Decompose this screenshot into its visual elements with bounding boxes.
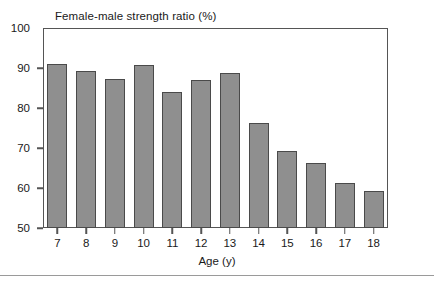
y-axis: 1009080706050 xyxy=(0,0,43,285)
bar xyxy=(47,64,67,228)
x-axis-tick-mark xyxy=(85,228,87,234)
x-axis-tick-mark xyxy=(287,228,289,234)
bar xyxy=(191,80,211,228)
y-axis-tick-label: 70 xyxy=(17,142,30,154)
bar xyxy=(105,79,125,228)
y-axis-tick-label: 80 xyxy=(17,102,30,114)
bar xyxy=(76,71,96,228)
x-axis-tick-label: 14 xyxy=(252,237,265,249)
bar xyxy=(335,183,355,228)
x-axis-tick-mark xyxy=(57,228,59,234)
x-axis-tick-label: 11 xyxy=(166,237,178,249)
bar xyxy=(162,92,182,228)
x-axis-tick-label: 13 xyxy=(223,237,236,249)
x-axis-tick-label: 17 xyxy=(338,237,351,249)
page-divider xyxy=(0,275,434,276)
y-axis-tick-label: 50 xyxy=(17,222,30,234)
bar xyxy=(364,191,384,228)
x-axis-tick-mark xyxy=(200,228,202,234)
x-axis-tick-label: 8 xyxy=(83,237,89,249)
chart-title: Female-male strength ratio (%) xyxy=(55,10,217,22)
x-axis-tick-mark xyxy=(143,228,145,234)
bar xyxy=(306,163,326,228)
x-axis-tick-label: 9 xyxy=(112,237,118,249)
bar xyxy=(134,65,154,228)
x-axis-tick-label: 10 xyxy=(137,237,150,249)
x-axis-tick-label: 7 xyxy=(54,237,60,249)
y-axis-tick-label: 60 xyxy=(17,182,30,194)
y-axis-tick-label: 100 xyxy=(11,22,30,34)
x-axis-tick-mark xyxy=(172,228,174,234)
x-axis-title: Age (y) xyxy=(0,255,434,267)
x-axis-tick-mark xyxy=(258,228,260,234)
x-axis-tick-mark xyxy=(315,228,317,234)
x-axis-tick-label: 16 xyxy=(310,237,323,249)
x-axis-tick-mark xyxy=(373,228,375,234)
y-axis-tick-label: 90 xyxy=(17,62,30,74)
x-axis-tick-mark xyxy=(229,228,231,234)
x-axis-tick-mark xyxy=(114,228,116,234)
bar xyxy=(220,73,240,228)
bar xyxy=(249,123,269,228)
x-axis-tick-mark xyxy=(344,228,346,234)
x-axis-tick-label: 18 xyxy=(367,237,380,249)
bar xyxy=(277,151,297,228)
x-axis-tick-label: 12 xyxy=(195,237,208,249)
bars-group xyxy=(43,28,388,228)
x-axis-tick-label: 15 xyxy=(281,237,294,249)
bar-chart-figure: Female-male strength ratio (%) 100908070… xyxy=(0,0,434,285)
